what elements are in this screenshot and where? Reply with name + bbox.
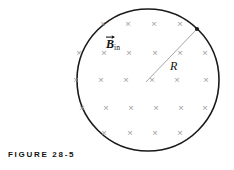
- field-mark: ×: [76, 47, 82, 58]
- field-mark: ×: [153, 102, 159, 113]
- field-mark: ×: [123, 74, 129, 85]
- field-mark: ×: [101, 127, 107, 138]
- field-mark: ×: [103, 102, 109, 113]
- b-label-subscript: in: [114, 43, 120, 52]
- magnetic-field-region-diagram: ××××××××××××××××××××××××××: [0, 0, 234, 170]
- field-mark: ×: [174, 74, 180, 85]
- field-mark: ×: [127, 127, 133, 138]
- field-mark: ×: [152, 47, 158, 58]
- field-mark: ×: [177, 18, 183, 29]
- b-label-text: B: [106, 37, 114, 51]
- field-mark: ×: [79, 102, 85, 113]
- field-mark: ×: [202, 102, 208, 113]
- field-mark: ×: [126, 47, 132, 58]
- field-mark: ×: [203, 74, 209, 85]
- field-mark: ×: [125, 18, 131, 29]
- b-vector-glyph: B: [106, 38, 114, 50]
- field-mark: ×: [98, 74, 104, 85]
- radius-label: R: [170, 60, 177, 72]
- figure-caption: FIGURE 28-5: [8, 150, 75, 159]
- field-mark: ×: [100, 18, 106, 29]
- field-mark: ×: [152, 127, 158, 138]
- field-mark: ×: [178, 102, 184, 113]
- field-mark: ×: [128, 102, 134, 113]
- field-mark: ×: [177, 127, 183, 138]
- magnetic-field-vector-label: B in: [106, 38, 120, 52]
- vector-arrow-icon: [106, 34, 115, 39]
- field-mark: ×: [151, 18, 157, 29]
- radius-endpoint-dot: [195, 27, 199, 31]
- field-mark: ×: [202, 47, 208, 58]
- field-mark: ×: [73, 74, 79, 85]
- figure-28-5: ×××××××××××××××××××××××××× B in R FIGURE…: [0, 0, 234, 170]
